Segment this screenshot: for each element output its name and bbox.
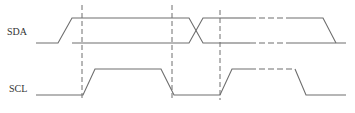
sda-high-fall <box>288 18 336 43</box>
timing-waveforms <box>0 0 355 113</box>
sda-label: SDA <box>7 27 27 37</box>
scl-label: SCL <box>9 84 27 94</box>
sda-start-rise <box>36 18 172 43</box>
i2c-timing-diagram: SDA SCL <box>0 0 355 113</box>
scl-fall-end-1 <box>295 69 346 95</box>
scl-waveform-1 <box>36 69 250 95</box>
sda-crossover-up <box>172 18 220 43</box>
